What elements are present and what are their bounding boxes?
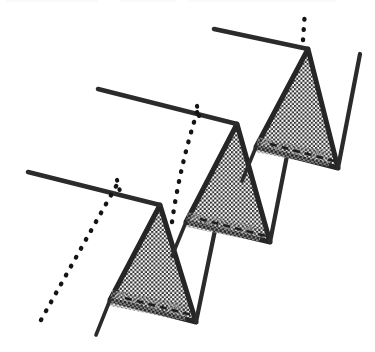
tail-1 <box>96 300 110 335</box>
sawtooth-diagram <box>0 0 375 352</box>
dotted-marker-3 <box>303 11 305 40</box>
dotted-marker-1 <box>41 181 119 320</box>
baseline-2 <box>98 89 237 124</box>
figure-canvas <box>0 0 375 352</box>
tail-2 <box>172 222 186 256</box>
riser-3 <box>338 54 360 168</box>
baseline-3 <box>214 29 308 49</box>
baseline-1 <box>28 172 160 205</box>
